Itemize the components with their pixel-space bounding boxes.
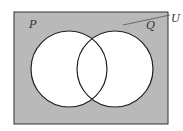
set-q-label: Q [146,19,155,32]
set-p-label: P [28,18,37,31]
universe-label: U [171,12,181,25]
venn-diagram: P Q U [0,0,183,131]
